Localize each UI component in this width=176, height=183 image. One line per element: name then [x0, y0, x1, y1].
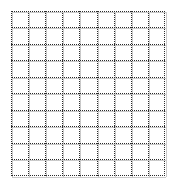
gridline-horizontal-dotted: [11, 77, 165, 78]
gridline-vertical-solid: [98, 12, 99, 177]
gridline-horizontal-dotted: [11, 60, 165, 61]
gridline-vertical-solid: [115, 12, 116, 177]
gridline-vertical-solid: [166, 12, 167, 177]
gridline-horizontal-dotted: [11, 126, 165, 127]
gridline-vertical-solid: [63, 12, 64, 177]
gridline-vertical-dotted: [148, 11, 149, 176]
gridline-vertical-solid: [80, 12, 81, 177]
gridline-vertical-dotted: [11, 11, 12, 176]
gridline-horizontal-dotted: [11, 110, 165, 111]
gridline-horizontal-dotted: [11, 44, 165, 45]
gridline-horizontal-solid: [12, 111, 166, 112]
gridline-horizontal-dotted: [11, 27, 165, 28]
gridline-horizontal-solid: [12, 144, 166, 145]
gridline-horizontal-dotted: [11, 175, 165, 176]
gridline-horizontal-solid: [12, 78, 166, 79]
gridline-vertical-dotted: [164, 11, 165, 176]
gridline-horizontal-solid: [12, 61, 166, 62]
gridline-vertical-solid: [12, 12, 13, 177]
gridline-vertical-solid: [149, 12, 150, 177]
gridline-horizontal-solid: [12, 45, 166, 46]
gridline-horizontal-dotted: [11, 93, 165, 94]
gridline-horizontal-solid: [12, 28, 166, 29]
gridline-horizontal-solid: [12, 127, 166, 128]
gridline-vertical-dotted: [62, 11, 63, 176]
gridline-horizontal-solid: [12, 160, 166, 161]
gridline-vertical-dotted: [28, 11, 29, 176]
gridline-vertical-solid: [46, 12, 47, 177]
gridlines-dotted-layer: [11, 11, 165, 176]
gridline-horizontal-dotted: [11, 143, 165, 144]
gridline-horizontal-solid: [12, 177, 166, 178]
gridline-vertical-solid: [29, 12, 30, 177]
gridline-vertical-solid: [132, 12, 133, 177]
gridline-horizontal-dotted: [11, 11, 165, 12]
gridline-horizontal-solid: [12, 94, 166, 95]
gridline-vertical-dotted: [45, 11, 46, 176]
gridline-vertical-dotted: [131, 11, 132, 176]
gridline-horizontal-dotted: [11, 159, 165, 160]
grid-canvas: [0, 0, 176, 183]
gridline-vertical-dotted: [114, 11, 115, 176]
grid-sheet[interactable]: [11, 11, 165, 176]
gridline-vertical-dotted: [97, 11, 98, 176]
gridline-horizontal-solid: [12, 12, 166, 13]
gridlines-solid-layer: [12, 12, 166, 177]
gridline-vertical-dotted: [79, 11, 80, 176]
